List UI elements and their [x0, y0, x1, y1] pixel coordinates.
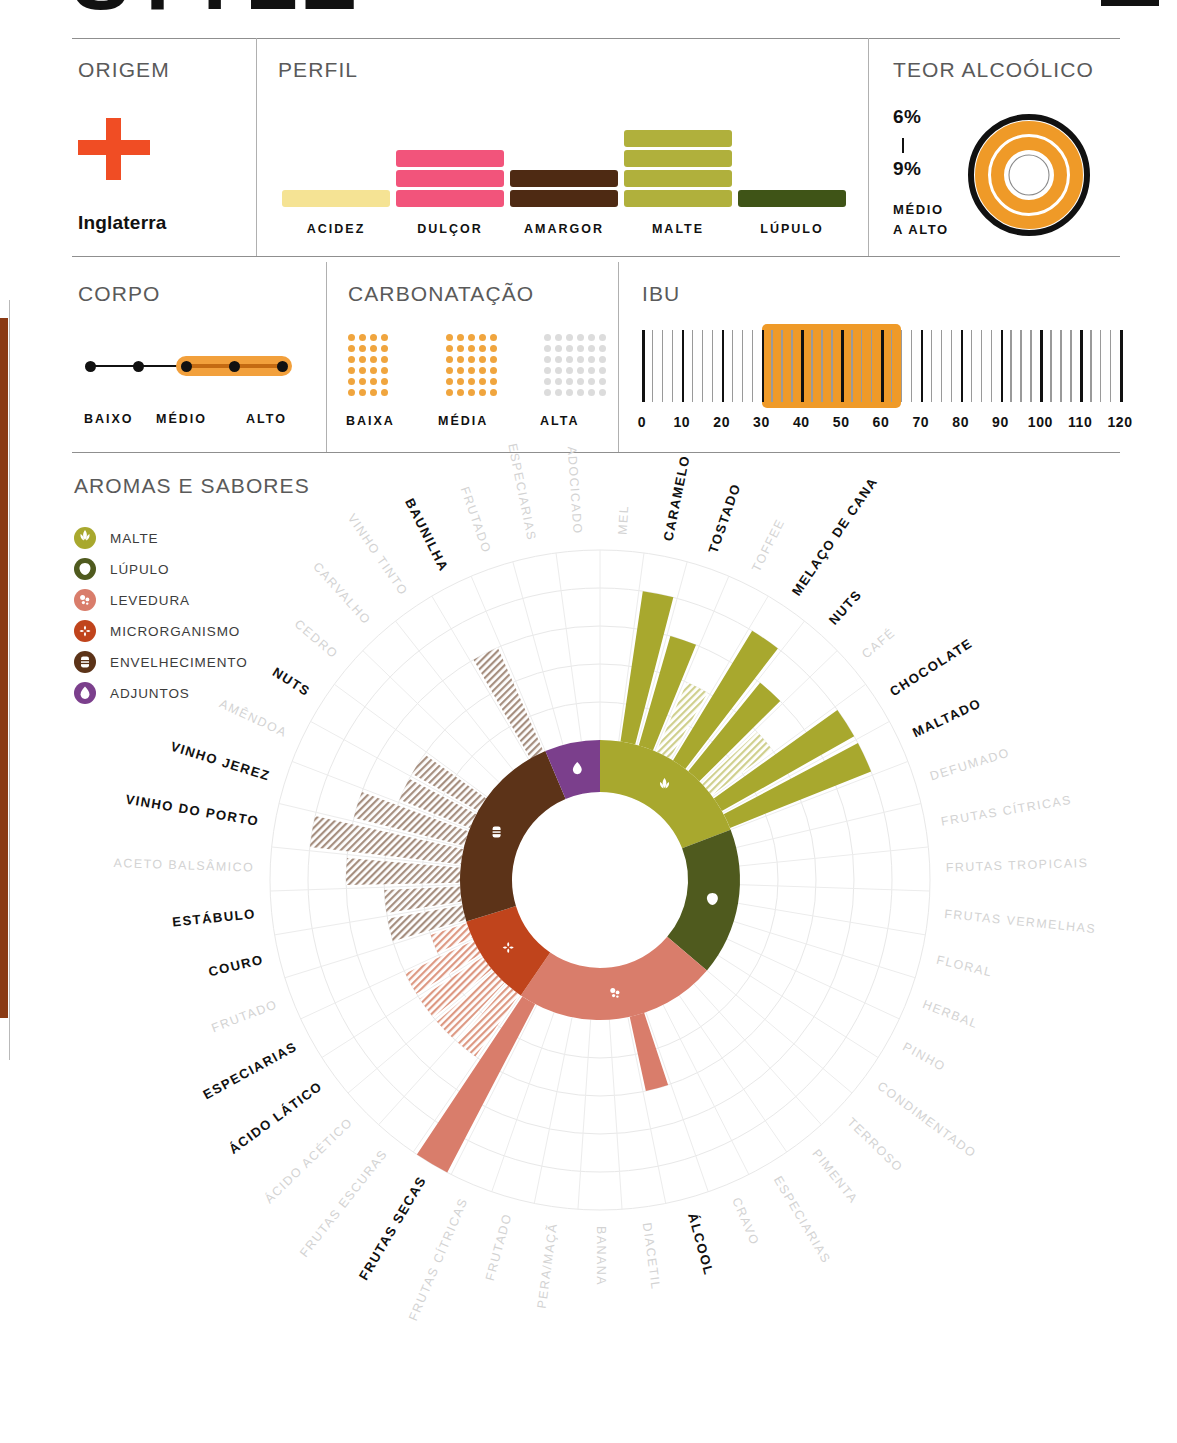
carb-dot [544, 334, 551, 341]
corpo-dot[interactable] [133, 361, 144, 372]
wheel-label: PIMENTA [810, 1147, 861, 1206]
carbonatacao-alta[interactable] [544, 334, 606, 396]
carb-dot [468, 389, 475, 396]
carb-dot [555, 345, 562, 352]
ibu-tick-label: 10 [673, 414, 690, 430]
carb-dot [566, 367, 573, 374]
wheel-label: ÁLCOOL [685, 1211, 716, 1277]
carb-dot [446, 367, 453, 374]
carb-dot [348, 378, 355, 385]
carb-dot [490, 334, 497, 341]
ibu-tick-minor [971, 330, 972, 402]
ibu-tick-major [1080, 330, 1083, 402]
wheel-label: CHOCOLATE [887, 635, 975, 699]
carb-dot [468, 356, 475, 363]
ibu-tick-minor [991, 330, 992, 402]
carb-dot [490, 378, 497, 385]
wheel-label: FRUTAS CÍTRICAS [940, 792, 1073, 829]
wheel-label: DIACETIL [640, 1222, 663, 1291]
carb-dot [446, 334, 453, 341]
ibu-tick-minor [1070, 330, 1071, 402]
carb-dot [381, 367, 388, 374]
wheel-label: CARVALHO [310, 560, 373, 628]
ibu-tick-major [762, 330, 765, 402]
carb-dot [588, 345, 595, 352]
ibu-tick-minor [831, 330, 832, 402]
corpo-dot[interactable] [85, 361, 96, 372]
perfil-segment [624, 190, 732, 207]
barrel-icon [492, 827, 501, 838]
ibu-tick-label: 70 [912, 414, 929, 430]
carb-dot [370, 389, 377, 396]
wheel-sector-levedura[interactable] [521, 937, 707, 1020]
carb-dot [468, 345, 475, 352]
carb-dot [544, 389, 551, 396]
carbonatacao-baixa[interactable] [348, 334, 388, 396]
wheel-label: TERROSO [844, 1115, 905, 1175]
carbonatacao-label-média: MÉDIA [438, 414, 488, 428]
carb-dot [457, 356, 464, 363]
corpo-dot[interactable] [277, 361, 288, 372]
wheel-labels: MELCARAMELOTOSTADOTOFFEEMELAÇO DE CANANU… [113, 442, 1096, 1323]
carb-dot [359, 356, 366, 363]
carb-dot [479, 389, 486, 396]
ibu-tick-minor [712, 330, 713, 402]
abv-separator [902, 138, 904, 153]
carb-dot [566, 345, 573, 352]
ibu-tick-minor [981, 330, 982, 402]
ibu-tick-minor [901, 330, 902, 402]
ibu-tick-minor [771, 330, 772, 402]
ibu-tick-major [801, 330, 804, 402]
wheel-label: BANANA [594, 1226, 608, 1286]
perfil-label-dulçor: DULÇOR [396, 222, 504, 236]
ibu-tick-minor [1030, 330, 1031, 402]
carb-dot [468, 378, 475, 385]
ibu-tick-label: 50 [833, 414, 850, 430]
carb-dot [348, 389, 355, 396]
carb-dot [577, 378, 584, 385]
ibu-tick-major [841, 330, 844, 402]
carbonatacao-label-baixa: BAIXA [346, 414, 395, 428]
carbonatacao-média[interactable] [446, 334, 497, 396]
wheel-label: BAUNILHA [402, 496, 451, 574]
ibu-heading: IBU [642, 282, 680, 306]
perfil-segment [738, 190, 846, 207]
perfil-label-malte: MALTE [624, 222, 732, 236]
wheel-label: DEFUMADO [928, 746, 1011, 784]
carb-dot [457, 367, 464, 374]
ibu-tick-major [1001, 330, 1004, 402]
corpo-dot[interactable] [181, 361, 192, 372]
corpo-label-baixo: BAIXO [84, 412, 134, 426]
carb-dot [381, 356, 388, 363]
wheel-label: ESPECIARIAS [771, 1174, 834, 1266]
origem-heading: ORIGEM [78, 58, 170, 82]
perfil-segment [624, 130, 732, 147]
carb-dot [359, 389, 366, 396]
wheel-label: PERA/MAÇÃ [535, 1222, 560, 1310]
ibu-tick-minor [702, 330, 703, 402]
ibu-tick-minor [821, 330, 822, 402]
wheel-sector-envelhecimento[interactable] [460, 751, 566, 921]
perfil-bar-amargor [510, 170, 618, 210]
wheel-label: AMÊNDOA [217, 696, 290, 740]
ibu-tick-minor [871, 330, 872, 402]
carb-dot [577, 367, 584, 374]
ibu-tick-minor [1110, 330, 1111, 402]
ibu-tick-label: 110 [1068, 414, 1092, 430]
carbonatacao-axis-labels: BAIXAMÉDIAALTA [340, 414, 620, 434]
wheel-label: MEL [615, 504, 631, 535]
ibu-tick-minor [931, 330, 932, 402]
carb-dot [566, 356, 573, 363]
ibu-tick-major [642, 330, 645, 402]
ibu-tick-label: 60 [873, 414, 890, 430]
corpo-dot[interactable] [229, 361, 240, 372]
ibu-tick-minor [891, 330, 892, 402]
wheel-spoke[interactable] [630, 1013, 668, 1091]
carb-dot [599, 334, 606, 341]
corpo-scale [84, 350, 299, 382]
carb-dot [446, 356, 453, 363]
ibu-tick-label: 30 [753, 414, 770, 430]
carb-dot [468, 367, 475, 374]
perfil-segment [396, 190, 504, 207]
wheel-label: FRUTADO [483, 1212, 515, 1283]
